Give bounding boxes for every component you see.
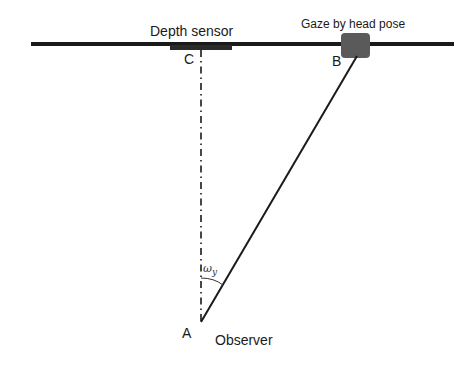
diagram-canvas bbox=[0, 0, 470, 368]
point-c-label: C bbox=[184, 52, 194, 66]
angle-subscript: y bbox=[212, 267, 217, 277]
angle-arc bbox=[201, 278, 223, 285]
observer-label: Observer bbox=[215, 333, 273, 347]
gaze-direction-line bbox=[201, 56, 357, 322]
gaze-point-box bbox=[341, 33, 370, 58]
depth-sensor-label: Depth sensor bbox=[150, 24, 233, 38]
point-b-label: B bbox=[332, 54, 341, 68]
depth-sensor-bar bbox=[170, 45, 232, 50]
gaze-label: Gaze by head pose bbox=[301, 18, 405, 30]
angle-symbol: ω bbox=[203, 262, 212, 275]
angle-label: ωy bbox=[203, 263, 217, 277]
point-a-label: A bbox=[182, 326, 191, 340]
